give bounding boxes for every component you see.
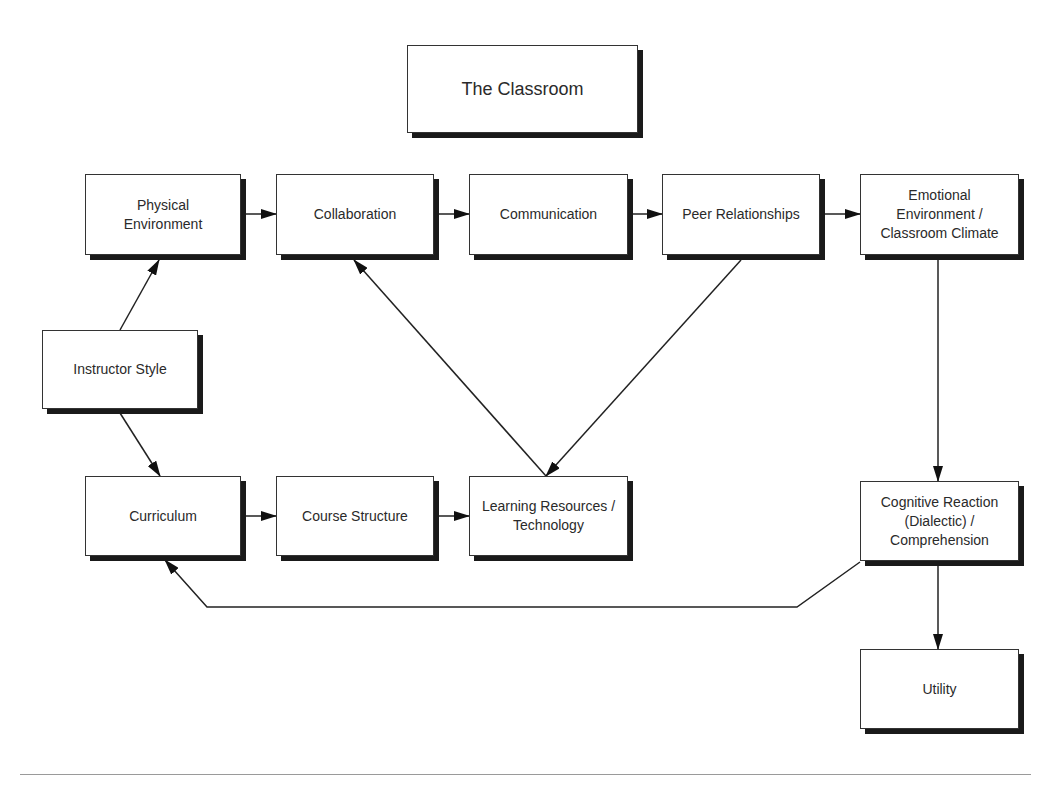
node-utility: Utility: [860, 649, 1019, 729]
node-peer-relationships: Peer Relationships: [662, 174, 820, 255]
node-emotional-environment: Emotional Environment / Classroom Climat…: [860, 174, 1019, 255]
node-curriculum: Curriculum: [85, 476, 241, 556]
edge-instructor-to-curriculum: [120, 413, 160, 476]
node-instructor-style: Instructor Style: [42, 330, 198, 409]
node-course-structure: Course Structure: [276, 476, 434, 556]
node-physical-environment: Physical Environment: [85, 174, 241, 255]
node-cognitive-reaction: Cognitive Reaction (Dialectic) / Compreh…: [860, 481, 1019, 561]
edge-peer-to-learning: [546, 260, 741, 476]
edge-learning-to-collaboration: [354, 260, 546, 476]
node-learning-resources: Learning Resources / Technology: [469, 476, 628, 556]
node-the-classroom: The Classroom: [407, 45, 638, 133]
edge-instructor-to-physical: [120, 260, 159, 330]
horizontal-rule: [20, 774, 1031, 775]
node-communication: Communication: [469, 174, 628, 255]
edge-cognitive-to-curriculum: [165, 560, 860, 607]
node-collaboration: Collaboration: [276, 174, 434, 255]
